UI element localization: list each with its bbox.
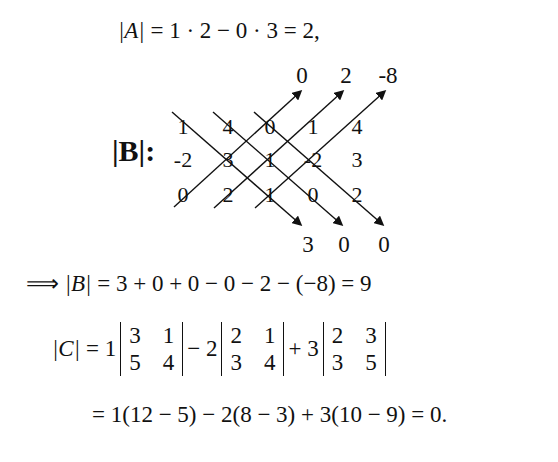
minor-entry: 1 [163, 322, 175, 349]
matrix-entry: 4 [342, 114, 372, 140]
minor-entry: 5 [129, 349, 141, 376]
det-c-eq: = 1 [86, 336, 116, 362]
matrix-entry: -2 [298, 147, 328, 173]
minor-entry: 4 [264, 349, 276, 376]
matrix-entry: 3 [213, 147, 243, 173]
equation-det-c-result: = 1(12 − 5) − 2(8 − 3) + 3(10 − 9) = 0. [92, 402, 447, 428]
matrix-entry: 4 [213, 114, 243, 140]
minor-entry: 3 [230, 349, 242, 376]
down-product-3: 0 [378, 232, 390, 258]
minor-entry: 3 [365, 322, 377, 349]
matrix-entry: 2 [213, 182, 243, 208]
minor-entry: 2 [230, 322, 242, 349]
matrix-entry: 0 [168, 182, 198, 208]
det-b-symbol: |B| [65, 271, 92, 296]
up-product-1: 0 [296, 63, 308, 89]
up-product-2: 2 [340, 63, 352, 89]
minor-entry: 3 [332, 349, 344, 376]
sarrus-arrows-icon [0, 0, 558, 462]
matrix-entry: 3 [342, 147, 372, 173]
minor-determinant-1: 31 54 [120, 322, 183, 376]
det-c-op3: + 3 [288, 336, 318, 362]
matrix-entry: 0 [298, 182, 328, 208]
det-c-symbol: |C| [52, 336, 80, 362]
matrix-entry: 1 [168, 114, 198, 140]
down-product-2: 0 [338, 232, 350, 258]
matrix-entry: 1 [255, 147, 285, 173]
matrix-entry: -2 [168, 147, 198, 173]
minor-entry: 5 [365, 349, 377, 376]
minor-entry: 3 [129, 322, 141, 349]
down-product-1: 3 [302, 232, 314, 258]
minor-entry: 4 [163, 349, 175, 376]
up-product-3: -8 [378, 63, 397, 89]
minor-determinant-3: 23 35 [323, 322, 386, 376]
implies-icon: ⟹ [26, 271, 59, 296]
matrix-entry: 1 [298, 114, 328, 140]
equation-det-b: ⟹ |B| = 3 + 0 + 0 − 0 − 2 − (−8) = 9 [26, 270, 372, 297]
matrix-entry: 0 [255, 114, 285, 140]
minor-entry: 2 [332, 322, 344, 349]
det-c-op2: − 2 [187, 336, 217, 362]
equation-det-c: |C| = 1 31 54 − 2 21 34 + 3 23 35 [52, 322, 390, 376]
matrix-entry: 2 [342, 182, 372, 208]
matrix-entry: 1 [255, 182, 285, 208]
det-b-expression: = 3 + 0 + 0 − 0 − 2 − (−8) = 9 [97, 271, 371, 296]
minor-determinant-2: 21 34 [221, 322, 284, 376]
minor-entry: 1 [264, 322, 276, 349]
